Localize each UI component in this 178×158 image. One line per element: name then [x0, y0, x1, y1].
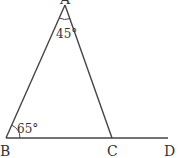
label-point-a: A: [59, 0, 71, 7]
angle-arc-a: [59, 18, 70, 19]
triangle-diagram: A B C D 45° 65°: [0, 0, 178, 158]
label-point-c: C: [107, 143, 118, 158]
label-point-d: D: [164, 143, 175, 158]
label-point-b: B: [0, 143, 10, 158]
segment-ab: [6, 5, 65, 138]
angle-label-b: 65°: [17, 122, 38, 136]
segment-ac: [65, 5, 112, 138]
angle-label-a: 45°: [56, 27, 77, 41]
